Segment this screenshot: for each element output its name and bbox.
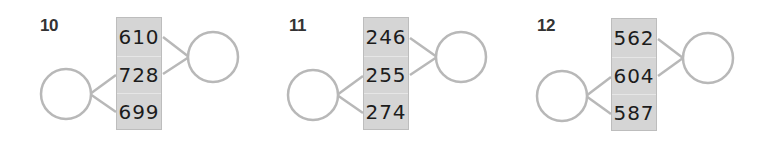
number-cell: 699: [117, 93, 161, 131]
number-box: 246 255 274: [363, 17, 409, 130]
number-cell: 274: [364, 93, 408, 131]
connector-line: [410, 57, 437, 75]
number-cell: 255: [364, 56, 408, 94]
left-answer-circle[interactable]: [41, 69, 91, 119]
connector-line: [586, 77, 611, 96]
connector-line: [90, 94, 116, 112]
left-answer-circle[interactable]: [537, 71, 587, 121]
connector-line: [90, 75, 116, 94]
connector-line: [410, 38, 437, 57]
right-answer-circle[interactable]: [188, 32, 238, 82]
left-answer-circle[interactable]: [288, 70, 338, 120]
problem-12: 12 562 604 587: [496, 0, 754, 146]
number-cell: 728: [117, 56, 161, 94]
connector-line: [586, 96, 611, 114]
number-cell: 610: [117, 18, 161, 56]
connector-line: [337, 95, 363, 113]
number-cell: 562: [612, 19, 656, 57]
right-answer-circle[interactable]: [683, 33, 733, 83]
connector-line: [163, 57, 189, 74]
connector-line: [163, 37, 189, 57]
connector-line: [658, 58, 683, 76]
problem-11: 11 246 255 274: [248, 0, 506, 146]
connector-line: [658, 39, 683, 58]
right-answer-circle[interactable]: [436, 32, 486, 82]
number-cell: 587: [612, 94, 656, 132]
problem-10: 10 610 728 699: [0, 0, 258, 146]
connector-line: [337, 76, 363, 95]
number-cell: 604: [612, 57, 656, 95]
number-box: 562 604 587: [611, 18, 657, 131]
number-cell: 246: [364, 18, 408, 56]
number-box: 610 728 699: [116, 17, 162, 130]
